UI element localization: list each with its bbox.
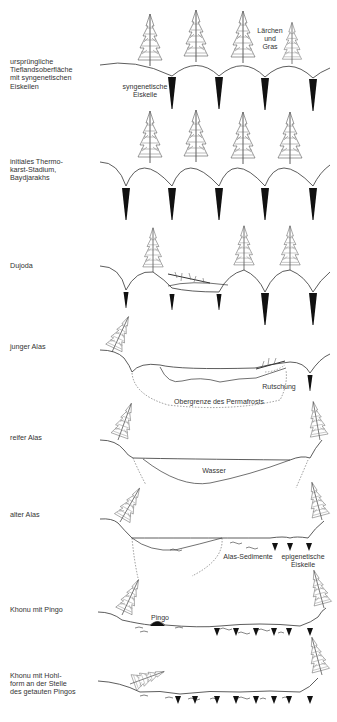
larch-tree-icon	[127, 664, 167, 692]
larch-tree-icon	[231, 11, 255, 63]
ice-wedge-icon	[233, 696, 239, 704]
ice-wedge-icon	[261, 78, 269, 110]
ice-wedge-icon	[309, 293, 317, 325]
stage7-profile	[98, 568, 333, 636]
ice-wedge-icon	[215, 77, 223, 109]
larch-tree-icon	[280, 226, 300, 270]
larch-tree-icon	[303, 635, 330, 677]
ice-wedge-icon	[271, 696, 277, 704]
ice-wedge-icon	[261, 293, 269, 325]
ice-wedge-icon	[217, 294, 222, 310]
larch-tree-icon	[305, 568, 332, 610]
ice-wedge-icon	[287, 543, 293, 551]
larch-tree-icon	[231, 112, 255, 164]
ice-wedge-icon	[309, 188, 317, 220]
stage8-profile	[98, 635, 331, 704]
larch-tree-icon	[110, 400, 140, 443]
ice-wedge-icon	[175, 696, 181, 704]
larch-tree-icon	[138, 14, 162, 66]
pingo-icon	[150, 622, 165, 627]
ice-wedge-icon	[271, 628, 277, 636]
larch-tree-icon	[143, 228, 163, 272]
larch-tree-icon	[304, 400, 328, 442]
ice-wedge-icon	[124, 292, 129, 308]
ice-wedge-icon	[308, 375, 313, 391]
ice-wedge-icon	[253, 696, 259, 704]
larch-tree-icon	[138, 111, 162, 163]
ice-wedge-icon	[286, 628, 292, 636]
stage3-profile	[100, 226, 330, 325]
stage4-profile	[100, 313, 330, 408]
ice-wedge-icon	[306, 543, 312, 551]
ice-wedge-icon	[261, 188, 269, 220]
larch-tree-icon	[234, 226, 254, 270]
ice-wedge-icon	[272, 543, 278, 551]
ice-wedge-icon	[168, 77, 176, 109]
ice-wedge-icon	[122, 188, 130, 220]
larch-tree-icon	[184, 110, 208, 162]
ice-wedge-icon	[168, 188, 176, 220]
stage2-profile	[100, 110, 330, 220]
larch-tree-icon	[303, 480, 330, 522]
larch-tree-icon	[184, 10, 208, 62]
ice-wedge-icon	[214, 696, 220, 704]
larch-tree-icon	[114, 576, 147, 619]
larch-tree-icon	[278, 112, 302, 164]
stage6-profile	[100, 480, 331, 578]
ice-wedge-icon	[233, 628, 239, 636]
fallen-tree-icon	[256, 358, 285, 369]
larch-tree-icon	[282, 22, 301, 64]
ice-wedge-icon	[253, 628, 259, 636]
ice-wedge-icon	[307, 696, 313, 704]
larch-tree-icon	[104, 313, 137, 356]
ice-wedge-icon	[215, 188, 223, 220]
stage1-profile	[100, 10, 330, 111]
ice-wedge-icon	[286, 696, 292, 704]
stage5-profile	[100, 400, 329, 488]
ice-wedge-icon	[309, 79, 317, 111]
fallen-tree-icon	[168, 272, 210, 283]
diagram-canvas	[0, 0, 337, 722]
larch-tree-icon	[112, 484, 147, 527]
ice-wedge-icon	[307, 628, 313, 636]
ice-wedge-icon	[214, 628, 220, 636]
ice-wedge-icon	[170, 294, 175, 310]
